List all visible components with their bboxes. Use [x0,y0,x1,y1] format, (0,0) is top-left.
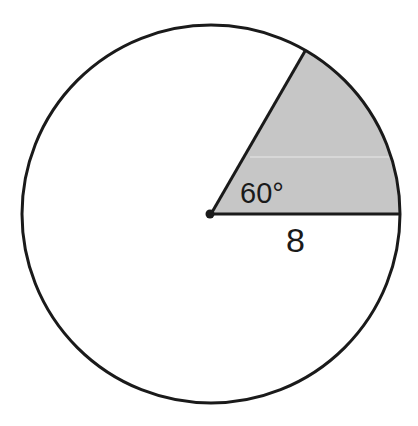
center-point [206,210,215,219]
radius-label: 8 [286,221,305,259]
circle-diagram: 60° 8 [0,0,418,426]
angle-label: 60° [240,177,284,209]
